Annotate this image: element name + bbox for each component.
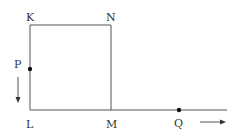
down-arrow-icon [16, 77, 21, 103]
label-P: P [14, 58, 22, 71]
label-M: M [106, 118, 117, 131]
label-K: K [26, 11, 35, 24]
right-arrow-icon [200, 120, 226, 125]
point-P-dot [28, 67, 32, 71]
label-L: L [26, 118, 34, 131]
label-N: N [106, 11, 116, 24]
label-Q: Q [174, 117, 183, 130]
diagram-canvas: K N P L M Q [0, 0, 240, 134]
point-Q-dot [177, 108, 181, 112]
